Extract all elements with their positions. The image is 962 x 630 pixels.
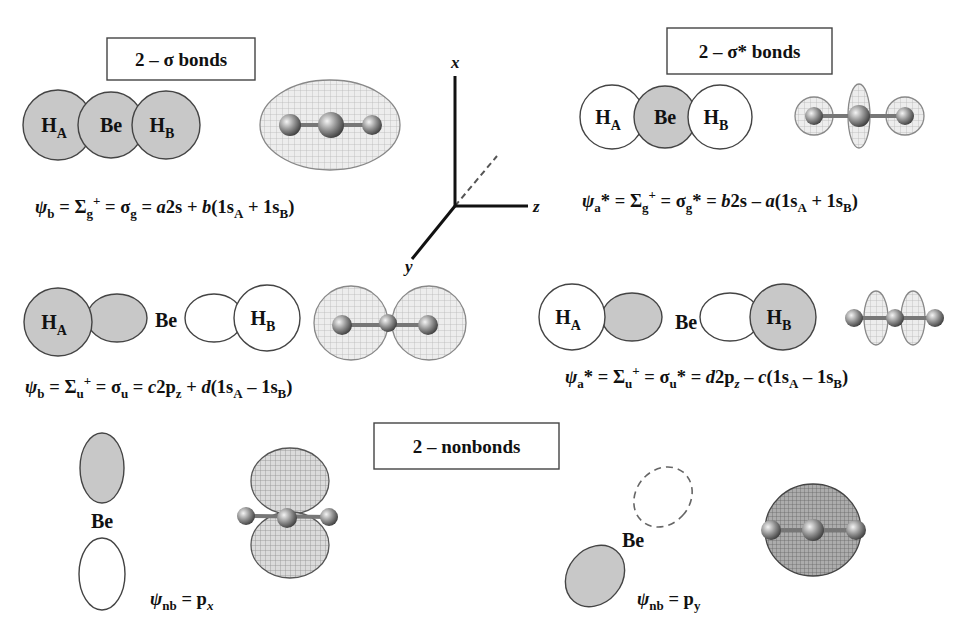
lobe-h-b [750, 284, 816, 350]
atom-sphere [320, 508, 338, 526]
sigma-u-surface [314, 286, 466, 360]
sigma-u-star-surface [845, 291, 944, 345]
lobe-h-b [132, 91, 200, 159]
section-box-label: 2 – σ* bonds [699, 41, 801, 62]
x-axis-label: x [450, 53, 460, 72]
y-axis-label: y [403, 257, 413, 276]
atom-label: Be [100, 114, 122, 136]
hidden-axis-dashed [455, 156, 497, 206]
lobe-be-lobe-left [87, 294, 147, 342]
formula-p-y: ψnb = py [637, 589, 701, 613]
lobe-h-b [234, 285, 300, 351]
lobe-px-lobe-top [80, 433, 124, 503]
atom-sphere [845, 309, 863, 327]
atom-sphere [886, 309, 904, 327]
orbital-sigma-g-star: HABeHB [580, 85, 752, 149]
atom-sphere [277, 508, 297, 528]
section-box-label: 2 – nonbonds [413, 436, 521, 457]
atom-sphere [318, 112, 344, 138]
atom-sphere [846, 520, 866, 540]
sigma-g-star-surface [795, 84, 924, 148]
atom-sphere [379, 314, 397, 332]
orbital-sigma-g: HABeHB [23, 90, 200, 160]
section-box-sigma-star-bonds: 2 – σ* bonds [667, 28, 832, 74]
lobe-h-b [688, 85, 752, 149]
z-axis-label: z [532, 197, 540, 216]
section-box-label: 2 – σ bonds [135, 49, 227, 70]
be-label: Be [91, 510, 113, 532]
orbital-sigma-u-star: HAHBBe [539, 284, 816, 350]
be-label: Be [155, 309, 177, 331]
lobe-be-lobe-left [602, 293, 662, 341]
atom-sphere [418, 315, 438, 335]
formula-sigma-g-star: ψa* = Σg+ = σg* = b2s – a(1sA + 1sB) [582, 187, 858, 215]
formula-p-x: ψnb = px [150, 589, 214, 613]
py-surface [761, 484, 866, 576]
section-box-sigma-bonds: 2 – σ bonds [107, 38, 255, 80]
formula-sigma-u: ψb = Σu+ = σu = c2pz + d(1sA – 1sB) [25, 373, 292, 401]
orbital-sigma-u: HAHBBe [24, 285, 300, 356]
wavefunction-formulas: ψb = Σg+ = σg = a2s + b(1sA + 1sB)ψa* = … [25, 187, 858, 613]
coordinate-axes: xzy [403, 53, 540, 276]
atom-sphere [761, 520, 781, 540]
px-surface [237, 448, 338, 578]
atom-sphere [805, 107, 823, 125]
atom-sphere [362, 115, 382, 135]
formula-sigma-u-star: ψa* = Σu+ = σu* = d2pz – c(1sA – 1sB) [565, 363, 848, 391]
be-label: Be [622, 529, 644, 551]
mo-diagram-canvas: 2 – σ bonds2 – σ* bonds2 – nonbonds xzy … [0, 0, 962, 630]
atom-sphere [332, 315, 352, 335]
orbital-p-x: Be [79, 433, 125, 610]
lobe-px-lobe-bottom [79, 538, 125, 610]
atom-sphere [926, 309, 944, 327]
isosurface-lobe [251, 448, 329, 514]
sigma-g-surface [260, 80, 400, 170]
section-box-nonbonds: 2 – nonbonds [374, 423, 559, 469]
atom-sphere [802, 519, 824, 541]
atom-sphere [237, 507, 255, 525]
atom-sphere [896, 107, 914, 125]
atom-sphere [848, 105, 870, 127]
lobe-py-lobe-back [622, 455, 705, 539]
formula-sigma-g: ψb = Σg+ = σg = a2s + b(1sA + 1sB) [35, 193, 294, 221]
y-axis-line [412, 206, 455, 259]
lobe-h-a [539, 284, 605, 350]
lobe-h-a [24, 288, 92, 356]
atom-sphere [279, 114, 301, 136]
be-label: Be [675, 311, 697, 333]
atom-label: Be [654, 106, 676, 128]
